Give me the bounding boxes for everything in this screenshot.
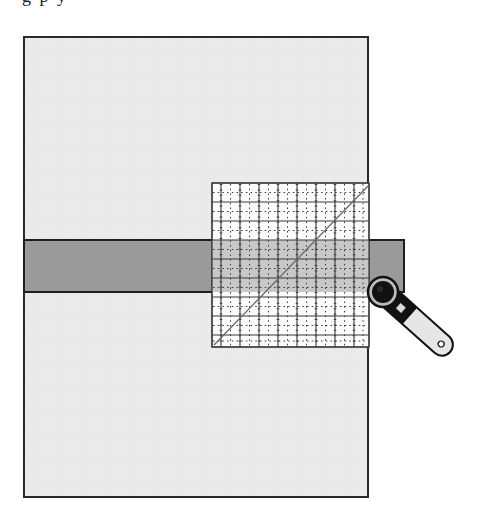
- cutting-diagram: [0, 0, 488, 524]
- rotary-cutter-icon: [368, 277, 457, 360]
- quilting-ruler: [212, 183, 369, 347]
